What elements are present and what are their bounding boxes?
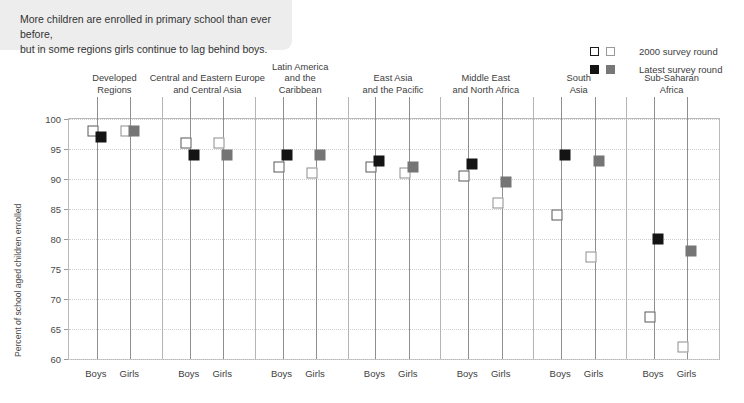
legend-swatch-group [586, 47, 632, 56]
data-point-boys-2000[interactable] [645, 312, 656, 323]
boys-stem [190, 97, 191, 359]
legend-swatch-boys-icon [590, 47, 599, 56]
region-separator [533, 97, 534, 359]
data-point-girls-2000[interactable] [214, 138, 225, 149]
y-gridline [69, 239, 719, 240]
data-point-boys-2000[interactable] [273, 162, 284, 173]
girls-stem [223, 97, 224, 359]
y-axis-tick-mark [64, 209, 68, 210]
data-point-boys-latest[interactable] [281, 150, 292, 161]
data-point-boys-2000[interactable] [459, 171, 470, 182]
y-axis-tick-label: 70 [23, 294, 61, 305]
data-point-girls-latest[interactable] [500, 177, 511, 188]
legend-item-label: 2000 survey round [639, 46, 718, 57]
y-axis-tick-mark [64, 179, 68, 180]
data-point-girls-2000[interactable] [492, 198, 503, 209]
x-tick-label-girls: Girls [305, 368, 325, 379]
boys-stem [375, 97, 376, 359]
legend-item[interactable]: 2000 survey round [586, 44, 736, 59]
chart-root: More children are enrolled in primary sc… [0, 0, 744, 403]
y-gridline [69, 359, 719, 360]
chart-headline: More children are enrolled in primary sc… [20, 12, 278, 57]
x-tick-label-girls: Girls [677, 368, 697, 379]
y-axis-tick-label: 85 [23, 204, 61, 215]
x-tick-label-girls: Girls [212, 368, 232, 379]
y-gridline [69, 299, 719, 300]
data-point-boys-latest[interactable] [95, 132, 106, 143]
data-point-girls-2000[interactable] [307, 168, 318, 179]
girls-stem [316, 97, 317, 359]
legend-swatch-group [586, 65, 632, 74]
y-gridline [69, 209, 719, 210]
x-tick-label-girls: Girls [398, 368, 418, 379]
y-axis-tick-label: 75 [23, 264, 61, 275]
region-title: Latin America and the Caribbean [272, 62, 328, 97]
y-gridline [69, 149, 719, 150]
y-axis-tick-label: 60 [23, 354, 61, 365]
girls-stem [502, 97, 503, 359]
data-point-girls-latest[interactable] [315, 150, 326, 161]
region-title: South Asia [567, 73, 591, 96]
x-tick-label-boys: Boys [457, 368, 478, 379]
data-point-boys-latest[interactable] [653, 234, 664, 245]
data-point-boys-latest[interactable] [560, 150, 571, 161]
region-separator [626, 97, 627, 359]
region-title: Sub-Saharan Africa [644, 73, 699, 96]
x-tick-label-boys: Boys [178, 368, 199, 379]
data-point-boys-latest[interactable] [188, 150, 199, 161]
data-point-boys-2000[interactable] [552, 210, 563, 221]
y-axis-tick-mark [64, 149, 68, 150]
y-axis-tick-label: 65 [23, 324, 61, 335]
region-title: East Asia and the Pacific [363, 73, 424, 96]
data-point-boys-latest[interactable] [467, 159, 478, 170]
plot-area: 6065707580859095100Percent of school age… [68, 118, 720, 360]
y-gridline [69, 329, 719, 330]
y-axis-tick-label: 90 [23, 174, 61, 185]
region-separator [440, 97, 441, 359]
y-gridline [69, 179, 719, 180]
data-point-boys-latest[interactable] [374, 156, 385, 167]
y-axis-tick-label: 80 [23, 234, 61, 245]
y-axis-tick-mark [64, 239, 68, 240]
legend-swatch-girls-icon [606, 65, 615, 74]
y-axis-title: Percent of school aged children enrolled [13, 204, 23, 357]
legend-swatch-girls-icon [606, 47, 615, 56]
header-banner: More children are enrolled in primary sc… [0, 0, 292, 50]
x-tick-label-girls: Girls [491, 368, 511, 379]
data-point-girls-2000[interactable] [585, 252, 596, 263]
data-point-girls-latest[interactable] [686, 246, 697, 257]
data-point-girls-latest[interactable] [593, 156, 604, 167]
x-tick-label-boys: Boys [550, 368, 571, 379]
data-point-girls-2000[interactable] [678, 342, 689, 353]
x-tick-label-boys: Boys [85, 368, 106, 379]
region-separator [162, 97, 163, 359]
legend-swatch-boys-icon [590, 65, 599, 74]
y-axis-tick-label: 95 [23, 144, 61, 155]
region-separator [348, 97, 349, 359]
y-axis-tick-mark [64, 359, 68, 360]
data-point-girls-latest[interactable] [129, 126, 140, 137]
x-tick-label-girls: Girls [120, 368, 140, 379]
data-point-boys-2000[interactable] [180, 138, 191, 149]
y-axis-tick-mark [64, 119, 68, 120]
region-title: Developed Regions [92, 73, 136, 96]
x-tick-label-boys: Boys [642, 368, 663, 379]
y-gridline [69, 119, 719, 120]
x-tick-label-boys: Boys [271, 368, 292, 379]
x-tick-label-girls: Girls [584, 368, 604, 379]
y-gridline [69, 269, 719, 270]
region-title: Middle East and North Africa [453, 73, 520, 96]
girls-stem [409, 97, 410, 359]
boys-stem [283, 97, 284, 359]
data-point-girls-latest[interactable] [222, 150, 233, 161]
region-title: Central and Eastern Europe and Central A… [150, 73, 265, 96]
y-axis-tick-mark [64, 299, 68, 300]
region-separator [255, 97, 256, 359]
y-axis-tick-label: 100 [23, 114, 61, 125]
y-axis-tick-mark [64, 329, 68, 330]
boys-stem [561, 97, 562, 359]
x-tick-label-boys: Boys [364, 368, 385, 379]
girls-stem [595, 97, 596, 359]
girls-stem [687, 97, 688, 359]
data-point-girls-latest[interactable] [407, 162, 418, 173]
